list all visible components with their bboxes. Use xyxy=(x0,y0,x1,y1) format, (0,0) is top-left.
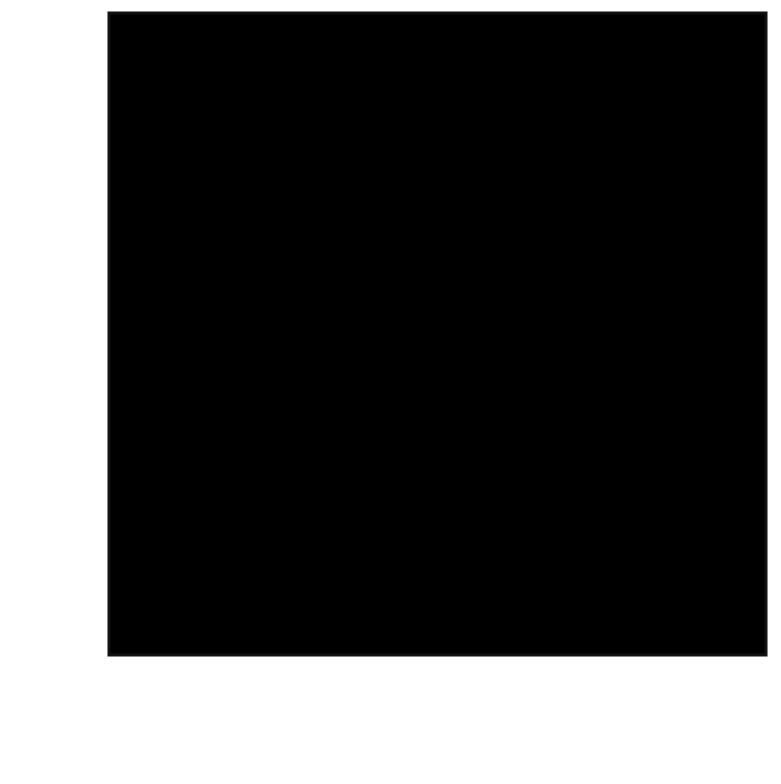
area-band-not-too-happy xyxy=(109,13,766,655)
happiness-satisfaction-area-chart xyxy=(0,0,781,784)
chart-svg xyxy=(0,0,781,784)
